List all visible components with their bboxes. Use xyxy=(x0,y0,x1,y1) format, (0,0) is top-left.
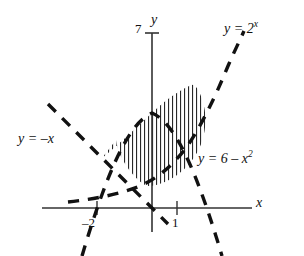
curve-label-parabola: y = 6 – x2 xyxy=(198,152,253,166)
curve-label-exponential-exponent: x xyxy=(254,19,258,29)
x-tick-label-one: 1 xyxy=(172,216,179,229)
curve-label-negative-line: y = –x xyxy=(18,132,54,146)
x-axis-label: x xyxy=(256,196,262,210)
y-tick-label-7: 7 xyxy=(135,22,142,35)
math-figure: 7 y x y = 2x y = –x y = 6 – x2 –2 1 xyxy=(0,0,304,256)
curve-label-parabola-text: y = 6 – x xyxy=(198,151,248,166)
x-tick-label-minus2: –2 xyxy=(82,216,95,229)
y-axis-label: y xyxy=(151,13,157,27)
curve-label-exponential-text: y = 2 xyxy=(224,21,254,36)
plot-canvas xyxy=(0,0,304,256)
curve-label-exponential: y = 2x xyxy=(224,22,258,36)
curve-label-parabola-exponent: 2 xyxy=(248,149,253,159)
